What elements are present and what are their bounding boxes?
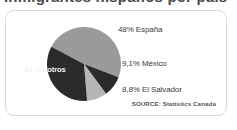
cropped-title-text: Inmigrantes hispanos por país xyxy=(4,0,227,5)
pie-callout-el-salvador: 8,8% El Salvador xyxy=(122,85,182,94)
pie-chart xyxy=(44,19,124,109)
source-note: SOURCE: Statistics Canada xyxy=(132,100,216,107)
cropped-title-remnant: Inmigrantes hispanos por país xyxy=(0,0,237,7)
pie-slice-label-otros: 34,1% otros xyxy=(8,65,82,74)
pie-chart-svg xyxy=(44,19,124,109)
chart-card: 34,1% otros 48% España 9,1% México 8,8% … xyxy=(5,10,227,116)
pie-callout-mexico: 9,1% México xyxy=(122,59,167,68)
pie-callout-espana: 48% España xyxy=(118,25,162,34)
